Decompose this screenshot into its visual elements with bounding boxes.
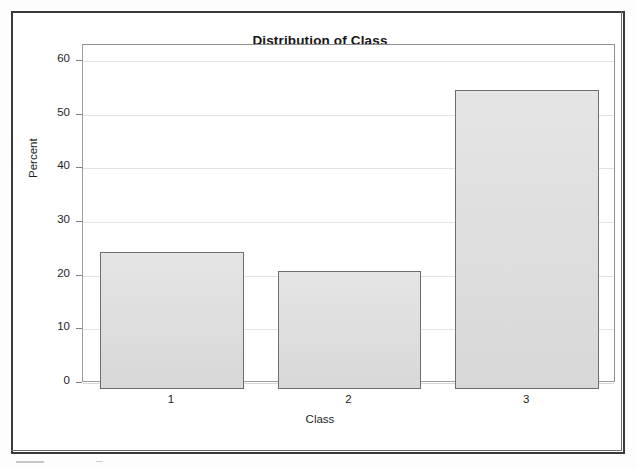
bar-2 bbox=[278, 271, 422, 389]
scan-artifact-secondary bbox=[96, 461, 103, 462]
scanned-page: Distribution of Class Percent Class 0102… bbox=[0, 0, 637, 469]
y-tick-label: 0 bbox=[13, 374, 70, 386]
x-tick-label: 2 bbox=[319, 393, 379, 405]
bar-1 bbox=[100, 252, 244, 389]
x-tick-label: 3 bbox=[496, 393, 556, 405]
y-tick-label: 50 bbox=[13, 106, 70, 118]
y-tick-label: 40 bbox=[13, 159, 70, 171]
y-tick-label: 10 bbox=[13, 320, 70, 332]
y-tick-label: 20 bbox=[13, 267, 70, 279]
x-tick-label: 1 bbox=[141, 393, 201, 405]
scan-artifact bbox=[16, 461, 44, 463]
bars-layer bbox=[83, 45, 614, 381]
y-tick-mark bbox=[76, 382, 82, 383]
y-axis-title: Percent bbox=[27, 138, 39, 178]
bar-3 bbox=[455, 90, 599, 389]
figure-frame: Distribution of Class Percent Class 0102… bbox=[11, 11, 625, 454]
plot-area bbox=[82, 44, 615, 382]
x-axis-title: Class bbox=[13, 413, 627, 425]
y-tick-label: 30 bbox=[13, 213, 70, 225]
y-tick-label: 60 bbox=[13, 52, 70, 64]
